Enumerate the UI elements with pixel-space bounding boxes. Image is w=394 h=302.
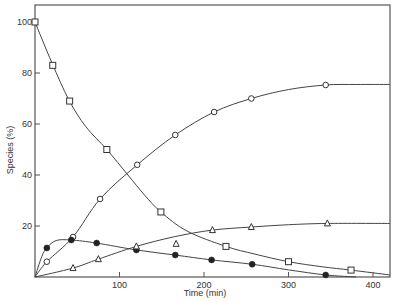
x-tick-label: 100 <box>112 280 127 290</box>
y-axis-title: Species (%) <box>5 126 15 175</box>
y-tick-label: 60 <box>22 119 32 129</box>
curve-open-square <box>35 22 390 275</box>
marker-open-circle <box>172 132 178 138</box>
marker-open-circle <box>211 109 217 115</box>
marker-square <box>223 243 229 249</box>
marker-open-circle <box>44 259 50 265</box>
marker-square <box>32 19 38 25</box>
marker-square <box>50 62 56 68</box>
plot-frame <box>35 5 390 277</box>
y-tick-label: 100 <box>17 17 32 27</box>
y-tick-label: 20 <box>22 221 32 231</box>
y-tick-label: 80 <box>22 68 32 78</box>
marker-filled-circle <box>209 257 215 263</box>
marker-square <box>158 209 164 215</box>
marker-filled-circle <box>323 272 329 278</box>
y-tick-label: 40 <box>22 170 32 180</box>
marker-open-circle <box>134 162 140 168</box>
chart: 10020030040020406080100 Time (min) Speci… <box>0 0 394 302</box>
series-curves <box>35 22 390 277</box>
marker-open-circle <box>97 196 103 202</box>
x-tick-label: 400 <box>365 280 380 290</box>
plot-border <box>35 5 390 277</box>
marker-filled-circle <box>249 261 255 267</box>
curve-filled-circle <box>35 240 356 277</box>
marker-open-circle <box>323 82 329 88</box>
marker-square <box>286 259 292 265</box>
marker-filled-circle <box>44 245 50 251</box>
marker-filled-circle <box>172 252 178 258</box>
x-tick-label: 300 <box>281 280 296 290</box>
marker-square <box>348 267 354 273</box>
marker-filled-circle <box>94 240 100 246</box>
marker-square <box>104 147 110 153</box>
x-axis-title: Time (min) <box>184 288 227 298</box>
marker-triangle <box>173 240 179 246</box>
marker-filled-circle <box>68 237 74 243</box>
axis-ticks: 10020030040020406080100 <box>17 17 381 290</box>
series-markers <box>32 19 354 278</box>
marker-square <box>67 98 73 104</box>
marker-open-circle <box>249 96 255 102</box>
